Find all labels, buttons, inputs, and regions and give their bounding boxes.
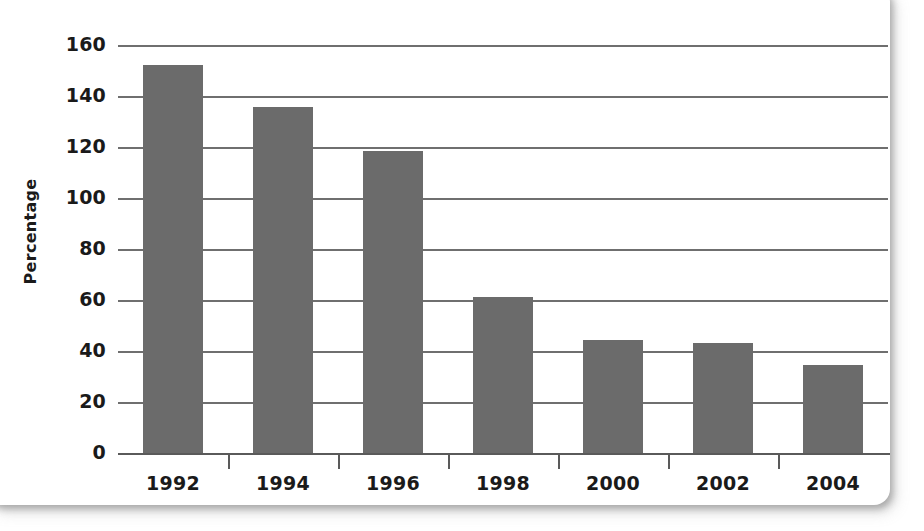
x-tick-mark-2 bbox=[338, 453, 340, 469]
y-tick-label-20: 20 bbox=[46, 390, 106, 412]
bar-1994 bbox=[253, 107, 313, 453]
plot-area bbox=[118, 45, 888, 453]
y-tick-label-140: 140 bbox=[46, 84, 106, 106]
x-tick-label-1998: 1998 bbox=[448, 472, 558, 494]
x-tick-label-2000: 2000 bbox=[558, 472, 668, 494]
x-tick-mark-6 bbox=[778, 453, 780, 469]
y-tick-label-60: 60 bbox=[46, 288, 106, 310]
y-tick-label-160: 160 bbox=[46, 33, 106, 55]
gridline-120 bbox=[118, 147, 888, 149]
chart-screenshot: Percentage 020406080100120140160 1992199… bbox=[0, 0, 924, 531]
x-tick-mark-1 bbox=[228, 453, 230, 469]
x-tick-label-1996: 1996 bbox=[338, 472, 448, 494]
bar-2000 bbox=[583, 340, 643, 453]
x-axis-line bbox=[118, 453, 890, 455]
y-tick-label-120: 120 bbox=[46, 135, 106, 157]
y-axis-title: Percentage bbox=[21, 162, 40, 302]
gridline-100 bbox=[118, 198, 888, 200]
bar-1998 bbox=[473, 297, 533, 453]
bar-2002 bbox=[693, 343, 753, 453]
gridline-140 bbox=[118, 96, 888, 98]
bar-1992 bbox=[143, 65, 203, 453]
gridline-80 bbox=[118, 249, 888, 251]
bar-2004 bbox=[803, 365, 863, 453]
bar-1996 bbox=[363, 151, 423, 453]
x-tick-mark-3 bbox=[448, 453, 450, 469]
x-tick-mark-4 bbox=[558, 453, 560, 469]
x-tick-label-1992: 1992 bbox=[118, 472, 228, 494]
x-tick-label-2004: 2004 bbox=[778, 472, 888, 494]
x-tick-label-2002: 2002 bbox=[668, 472, 778, 494]
y-axis-tick-labels: 020406080100120140160 bbox=[40, 45, 106, 453]
y-tick-label-0: 0 bbox=[46, 441, 106, 463]
y-tick-label-80: 80 bbox=[46, 237, 106, 259]
y-tick-label-40: 40 bbox=[46, 339, 106, 361]
x-tick-label-1994: 1994 bbox=[228, 472, 338, 494]
x-tick-mark-5 bbox=[668, 453, 670, 469]
gridline-160 bbox=[118, 45, 888, 47]
y-tick-label-100: 100 bbox=[46, 186, 106, 208]
